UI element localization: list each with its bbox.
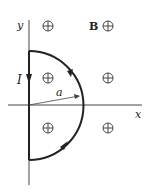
field-markers bbox=[43, 21, 113, 133]
current-arrow-icon bbox=[26, 74, 32, 84]
field-marker-icon bbox=[43, 73, 53, 83]
radius-line bbox=[29, 96, 79, 105]
current-label: I bbox=[16, 73, 22, 87]
field-marker-icon bbox=[103, 73, 113, 83]
semicircle-loop-diagram: y x I a B bbox=[0, 0, 151, 195]
field-marker-icon bbox=[43, 123, 53, 133]
field-marker-icon bbox=[103, 21, 113, 31]
radius-label: a bbox=[56, 86, 63, 99]
field-marker-icon bbox=[43, 21, 53, 31]
x-axis-label: x bbox=[135, 108, 142, 121]
field-label: B bbox=[89, 20, 98, 33]
radius-arrow-icon bbox=[74, 94, 80, 99]
y-axis-label: y bbox=[16, 19, 24, 32]
field-marker-icon bbox=[103, 123, 113, 133]
